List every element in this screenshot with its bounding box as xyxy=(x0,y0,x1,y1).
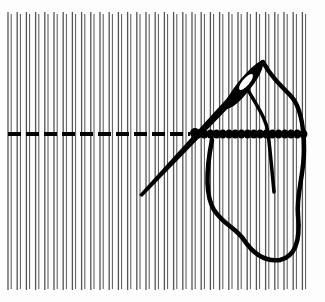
stitch-dash xyxy=(170,132,183,136)
stitch-dash xyxy=(26,132,39,136)
stitch-dash xyxy=(62,132,75,136)
needle-icon xyxy=(139,95,236,197)
stitch-drawing xyxy=(0,0,325,302)
warp-threads xyxy=(8,12,306,290)
thread-tail xyxy=(247,88,274,192)
stitch-dash xyxy=(8,132,21,136)
stitch-dash xyxy=(134,132,147,136)
running-stitch-dashes xyxy=(8,132,190,136)
stitch-dash xyxy=(98,132,111,136)
stitch-dash xyxy=(44,132,57,136)
stitch-dash xyxy=(80,132,93,136)
stitch-illustration xyxy=(0,0,325,302)
needle-entry-knot xyxy=(190,128,200,138)
stitch-dash xyxy=(116,132,129,136)
stitch-dash xyxy=(188,132,190,136)
stitch-dash xyxy=(152,132,165,136)
thread-loop xyxy=(207,62,304,260)
